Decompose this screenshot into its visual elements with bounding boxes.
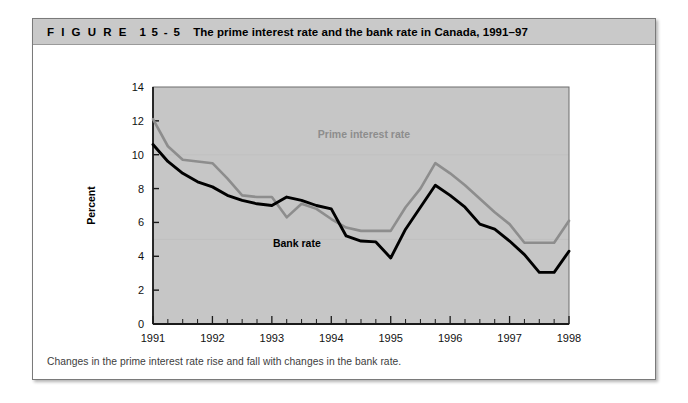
y-tick-label: 2 <box>138 284 144 296</box>
x-tick-label: 1993 <box>260 332 284 344</box>
x-tick-label: 1998 <box>557 332 581 344</box>
y-tick-label: 10 <box>132 149 144 161</box>
y-tick-label: 0 <box>138 318 144 330</box>
y-axis-title: Percent <box>85 186 97 225</box>
x-tick-label: 1991 <box>141 332 165 344</box>
y-tick-label: 6 <box>138 216 144 228</box>
figure-title: The prime interest rate and the bank rat… <box>193 26 528 38</box>
figure-container: F I G U R E 1 5 - 5 The prime interest r… <box>32 18 656 380</box>
y-tick-label: 14 <box>132 81 144 93</box>
line-chart: 02468101214Percent1991199219931994199519… <box>33 46 655 346</box>
y-tick-label: 8 <box>138 183 144 195</box>
x-tick-label: 1994 <box>319 332 343 344</box>
series-label-prime-interest-rate: Prime interest rate <box>318 128 410 140</box>
figure-header-band: F I G U R E 1 5 - 5 The prime interest r… <box>33 19 655 45</box>
x-tick-label: 1995 <box>378 332 402 344</box>
x-tick-label: 1992 <box>200 332 224 344</box>
plot-background <box>153 87 569 324</box>
figure-caption: Changes in the prime interest rate rise … <box>47 356 401 367</box>
x-tick-label: 1997 <box>497 332 521 344</box>
figure-label: F I G U R E <box>47 26 128 38</box>
series-label-bank-rate: Bank rate <box>273 237 321 249</box>
y-tick-label: 4 <box>138 250 144 262</box>
x-tick-label: 1996 <box>438 332 462 344</box>
y-tick-label: 12 <box>132 115 144 127</box>
figure-number: 1 5 - 5 <box>139 26 181 38</box>
chart-region: 02468101214Percent1991199219931994199519… <box>33 46 655 346</box>
